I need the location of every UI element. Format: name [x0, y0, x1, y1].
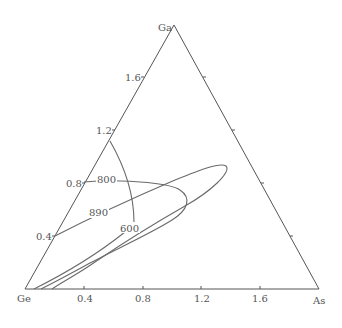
right-axis [174, 25, 319, 289]
bottom-tick-label: 1.2 [194, 293, 210, 304]
ternary-diagram: 800 890 600 Ga Ge As 0.4 0.8 1.2 1.6 0.4… [0, 0, 342, 328]
left-tick-label: 1.2 [96, 125, 112, 136]
vertex-label-ge: Ge [17, 293, 31, 304]
contour-label-890: 890 [89, 207, 108, 218]
left-tick-label: 0.4 [36, 231, 52, 242]
vertex-label-ga: Ga [158, 22, 172, 33]
vertex-label-as: As [312, 295, 325, 306]
left-tick-label: 0.8 [66, 178, 82, 189]
isotherm-800 [41, 181, 187, 289]
left-axis [25, 25, 174, 289]
contour-label-800: 800 [97, 174, 116, 185]
bottom-tick-label: 0.4 [77, 293, 93, 304]
contour-label-600: 600 [120, 223, 139, 234]
left-tick-label: 1.6 [125, 72, 141, 83]
bottom-tick-label: 0.8 [135, 293, 151, 304]
bottom-tick-label: 1.6 [252, 293, 268, 304]
